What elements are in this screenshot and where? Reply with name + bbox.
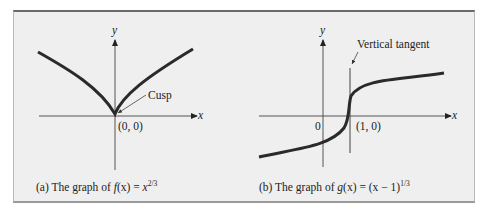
panel-b-graph — [259, 40, 451, 167]
curve-g — [259, 73, 444, 157]
vertical-tangent-label: Vertical tangent — [357, 38, 429, 50]
caption-base: (x − 1) — [369, 181, 400, 193]
cusp-label: Cusp — [148, 89, 172, 101]
panel-a-x-label: x — [198, 109, 203, 121]
caption-prefix: (a) The graph of — [36, 181, 114, 193]
panel-b-caption: (b) The graph of g(x) = (x − 1)1/3 — [259, 179, 410, 193]
caption-eq: = — [130, 181, 142, 193]
caption-exponent: 1/3 — [400, 179, 410, 188]
caption-arg: (x) — [343, 181, 356, 193]
panel-a-y-label: y — [112, 24, 117, 36]
panel-b-origin-label: 0 — [315, 120, 321, 132]
panel-a-caption: (a) The graph of f(x) = x2/3 — [36, 179, 157, 193]
panel-a-graph — [38, 40, 197, 170]
panel-b-point-label: (1, 0) — [356, 120, 381, 132]
caption-exponent: 2/3 — [148, 179, 158, 188]
caption-eq: = — [357, 181, 369, 193]
panel-b-x-label: x — [452, 109, 457, 121]
caption-prefix: (b) The graph of — [259, 181, 337, 193]
panel-a-origin-label: (0, 0) — [118, 120, 143, 132]
tangent-pointer — [352, 52, 358, 64]
caption-arg: (x) — [117, 181, 130, 193]
panel-b-y-label: y — [320, 24, 325, 36]
